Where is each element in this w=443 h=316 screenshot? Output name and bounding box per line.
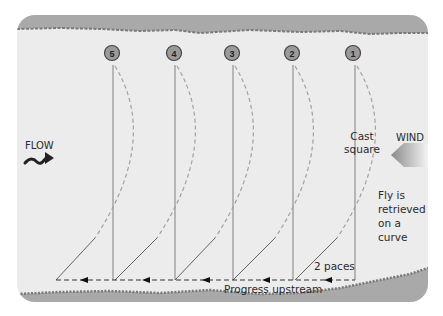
position-3-marker: 3 [225, 46, 240, 61]
cast-label-line1: Cast [342, 130, 382, 143]
retrieve-label: Fly is retrieved on a curve [378, 188, 426, 244]
river-frame [17, 15, 428, 302]
svg-text:2: 2 [289, 49, 294, 59]
retrieve-line4: curve [378, 230, 426, 244]
retrieve-line1: Fly is [378, 188, 426, 202]
river-diagram: 5 4 3 2 1 FLOW WIND Cast square Fly is r… [0, 0, 443, 316]
cast-square-label: Cast square [342, 130, 382, 156]
cast-label-line2: square [342, 143, 382, 156]
progress-upstream-label: Progress upstream [224, 283, 322, 296]
position-2-marker: 2 [285, 46, 300, 61]
svg-text:1: 1 [350, 49, 355, 59]
position-5-marker: 5 [105, 46, 120, 61]
svg-text:4: 4 [171, 49, 176, 59]
flow-label: FLOW [25, 139, 54, 152]
paces-label: 2 paces [314, 260, 355, 273]
position-1-marker: 1 [346, 46, 361, 61]
retrieve-line3: on a [378, 216, 426, 230]
svg-text:5: 5 [109, 49, 114, 59]
wind-label: WIND [396, 131, 424, 144]
retrieve-line2: retrieved [378, 202, 426, 216]
position-4-marker: 4 [167, 46, 182, 61]
svg-text:3: 3 [229, 49, 234, 59]
